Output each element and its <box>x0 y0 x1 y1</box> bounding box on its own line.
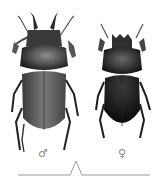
female-symbol: ♀ <box>118 148 126 159</box>
male-beetle <box>12 12 78 152</box>
male-symbol: ♂ <box>38 148 48 159</box>
specimen-plate: ♂ ♀ <box>0 0 162 176</box>
beetle-illustration <box>0 0 162 176</box>
female-beetle <box>96 24 150 138</box>
callout-pointer <box>18 161 150 175</box>
